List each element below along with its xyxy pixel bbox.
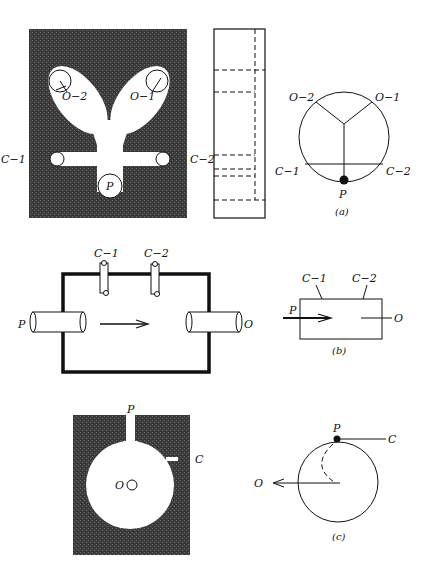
side-view-a (214, 29, 265, 218)
symbol-b-label-p: P (288, 304, 297, 317)
symbol-a-label-o1: O−1 (375, 91, 400, 104)
block-b-label-c2: C−2 (144, 247, 169, 260)
caption-c: (c) (332, 531, 346, 542)
block-a-label-c1: C−1 (1, 153, 26, 166)
block-c-label-o: O (115, 479, 124, 492)
symbol-c (273, 436, 386, 523)
block-c (73, 412, 190, 555)
symbol-b-label-c2: C−2 (352, 272, 377, 285)
symbol-c-label-o: O (254, 477, 263, 490)
symbol-c-label-p: P (332, 422, 341, 435)
part-a: O−2 O−1 P C−1 C−2 O−2 O−1 C−1 (1, 29, 411, 218)
block-c-label-c: C (195, 453, 204, 466)
block-a-label-p: P (105, 180, 114, 193)
symbol-a-label-p: P (338, 188, 347, 201)
symbol-c-label-c: C (388, 433, 397, 446)
block-b-label-p: P (17, 318, 26, 331)
block-a-label-o2: O−2 (62, 90, 87, 103)
part-c: P C O P C O (c) (73, 403, 397, 555)
block-c-label-p: P (126, 403, 135, 416)
symbol-b-label-c1: C−1 (302, 272, 327, 285)
caption-a: (a) (335, 206, 349, 217)
block-b-label-c1: C−1 (94, 247, 119, 260)
symbol-a-label-c2: C−2 (386, 165, 411, 178)
block-a-label-c2: C−2 (190, 153, 215, 166)
caption-b: (b) (332, 345, 346, 356)
symbol-a (299, 92, 389, 185)
block-a-label-o1: O−1 (130, 90, 155, 103)
part-b: C−1 C−2 P O C−1 C−2 P O (b) (17, 247, 403, 372)
symbol-a-label-c1: C−1 (275, 165, 300, 178)
block-b (30, 261, 242, 373)
symbol-b (283, 285, 392, 339)
microwave-junction-figure: O−2 O−1 P C−1 C−2 O−2 O−1 C−1 (0, 0, 428, 582)
block-a: O−2 O−1 P (29, 29, 187, 218)
symbol-b-label-o: O (394, 312, 403, 325)
symbol-a-label-o2: O−2 (289, 91, 314, 104)
block-b-label-o: O (244, 318, 253, 331)
